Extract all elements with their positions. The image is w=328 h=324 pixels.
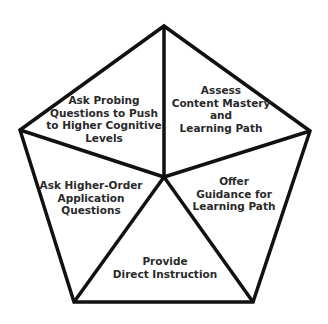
spoke-right <box>164 131 310 177</box>
pentagon-diagram: Assess Content Mastery and Learning Path… <box>0 0 328 324</box>
segment-instruction-label: Provide Direct Instruction <box>113 255 217 280</box>
segment-application-label: Ask Higher-Order Application Questions <box>40 179 143 217</box>
segment-guidance-label: Offer Guidance for Learning Path <box>193 175 276 213</box>
segment-probing-label: Ask Probing Questions to Push to Higher … <box>46 94 161 144</box>
segment-assess-label: Assess Content Mastery and Learning Path <box>172 84 271 134</box>
